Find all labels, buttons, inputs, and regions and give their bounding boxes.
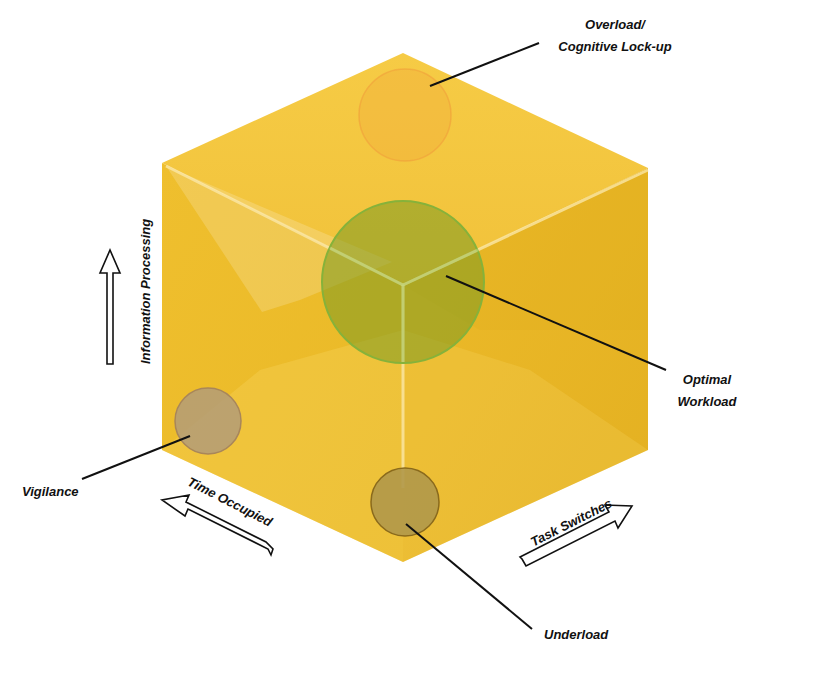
vigilance-circle xyxy=(175,388,241,454)
underload-leader-line xyxy=(406,524,532,629)
overload-label: Overload/ Cognitive Lock-up xyxy=(540,14,690,58)
vigilance-label: Vigilance xyxy=(22,484,79,499)
underload-label: Underload xyxy=(544,627,608,642)
optimal-workload-label: Optimal Workload xyxy=(662,369,752,413)
vigilance-leader-line xyxy=(82,436,190,479)
information-processing-axis-label: Information Processing xyxy=(138,219,153,364)
underload-circle xyxy=(371,468,439,536)
overload-label-line2: Cognitive Lock-up xyxy=(540,36,690,58)
overload-label-line1: Overload/ xyxy=(540,14,690,36)
workload-cube-diagram: Overload/ Cognitive Lock-up Optimal Work… xyxy=(0,0,824,698)
cube-svg xyxy=(0,0,824,698)
overload-leader-line xyxy=(430,43,539,86)
optimal-label-line2: Workload xyxy=(662,391,752,413)
information-processing-arrow-icon xyxy=(100,250,120,364)
optimal-label-line1: Optimal xyxy=(662,369,752,391)
